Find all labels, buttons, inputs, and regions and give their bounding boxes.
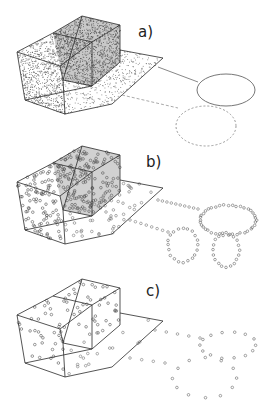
panel-a: [17, 16, 255, 146]
figure-canvas: [0, 0, 273, 415]
panel-c: [17, 279, 257, 399]
figure: a) b) c): [0, 0, 273, 415]
panel-label-c: c): [146, 284, 160, 299]
panel-label-a: a): [138, 25, 153, 40]
panel-label-b: b): [146, 155, 161, 170]
panel-b: [16, 146, 258, 269]
